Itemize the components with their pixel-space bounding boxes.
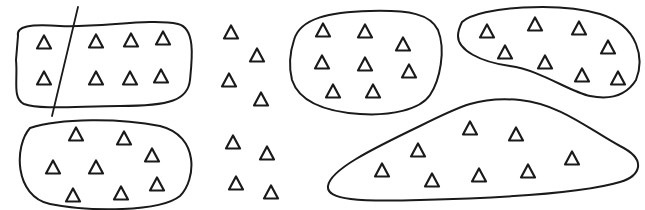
triangle-icon <box>396 38 410 51</box>
triangle-icon <box>114 187 128 200</box>
triangle-icon <box>123 72 137 85</box>
triangle-icon <box>463 122 477 135</box>
triangle-icon <box>402 65 416 78</box>
triangle-icon <box>224 26 238 39</box>
triangle-icon <box>375 164 389 177</box>
triangle-icon <box>538 56 552 69</box>
triangle-icon <box>250 49 264 62</box>
cluster-bottom-left <box>20 120 192 209</box>
triangle-icon <box>37 72 51 85</box>
triangle-icon <box>264 186 278 199</box>
cluster-boundary <box>20 120 192 209</box>
triangle-icon <box>150 178 164 191</box>
triangle-icon <box>425 174 439 187</box>
triangle-icon <box>480 25 494 38</box>
triangle-icon <box>124 34 138 47</box>
cluster-top-left-split <box>16 7 192 116</box>
triangle-icon <box>358 58 372 71</box>
triangle-icon <box>89 161 103 174</box>
triangle-icon <box>66 189 80 202</box>
triangle-icon <box>315 56 329 69</box>
triangle-icon <box>326 85 340 98</box>
triangle-icon <box>156 32 170 45</box>
cluster-middle-unclustered <box>222 26 278 199</box>
cluster-diagram <box>0 0 645 210</box>
triangle-icon <box>222 74 236 87</box>
triangle-icon <box>69 128 83 141</box>
diagram-canvas <box>0 0 645 210</box>
cluster-top-right <box>458 7 639 97</box>
triangle-icon <box>472 169 486 182</box>
triangle-icon <box>498 46 512 59</box>
triangle-icon <box>601 41 615 54</box>
triangle-icon <box>46 161 60 174</box>
triangle-icon <box>226 136 240 149</box>
triangle-icon <box>366 85 380 98</box>
triangle-icon <box>254 93 268 106</box>
triangle-icon <box>89 72 103 85</box>
divider-line <box>52 7 78 116</box>
triangle-icon <box>145 149 159 162</box>
triangle-icon <box>229 177 243 190</box>
triangle-icon <box>89 35 103 48</box>
triangle-icon <box>154 70 168 83</box>
triangle-icon <box>260 147 274 160</box>
triangle-icon <box>521 165 535 178</box>
triangle-icon <box>509 128 523 141</box>
triangle-icon <box>565 152 579 165</box>
triangle-icon <box>358 25 372 38</box>
triangle-icon <box>572 22 586 35</box>
cluster-top-center <box>290 11 442 115</box>
triangle-icon <box>117 132 131 145</box>
triangle-icon <box>528 18 542 31</box>
triangle-icon <box>411 144 425 157</box>
triangle-icon <box>316 24 330 37</box>
triangle-icon <box>575 69 589 82</box>
triangle-icon <box>611 72 625 85</box>
triangle-icon <box>37 36 51 49</box>
